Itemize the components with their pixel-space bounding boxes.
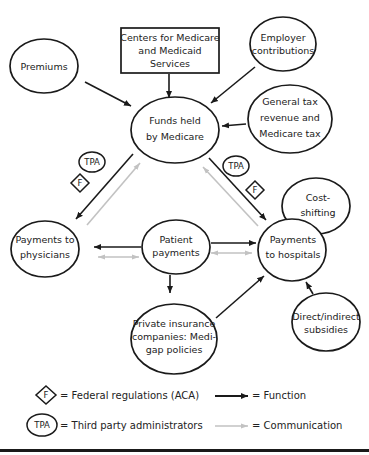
node-premiums-label: Premiums: [20, 61, 67, 72]
legend-tpa: TPA = Third party administrators: [27, 414, 203, 436]
arrow-tax-to-funds: [222, 124, 246, 126]
node-hospitals-label-line2: to hospitals: [265, 249, 320, 260]
node-funds-label-line1: Funds held: [149, 115, 201, 126]
tpa-marker-hospitals: TPA: [223, 156, 249, 176]
legend-f-label: = Federal regulations (ACA): [60, 390, 199, 401]
node-subsidies-label-line2: subsidies: [304, 324, 348, 335]
arrow-premiums-to-funds: [85, 82, 131, 106]
node-subsidies-label-line1: Direct/indirect: [292, 311, 360, 322]
node-cms-label-line2: and Medicaid: [138, 45, 201, 56]
node-cms-label-line3: Services: [150, 58, 190, 69]
node-private-insurance-label-line1: Private insurance: [133, 318, 216, 329]
node-general-tax-revenue: General tax revenue and Medicare tax: [248, 85, 332, 153]
legend-function: = Function: [215, 390, 306, 401]
federal-regulation-marker-hospitals: F: [246, 181, 264, 199]
f-marker-label: F: [78, 178, 83, 188]
node-funds-held-by-medicare: Funds held by Medicare: [131, 97, 219, 163]
arrow-subsidies-to-hospitals: [306, 282, 313, 294]
tpa-marker-label: TPA: [83, 157, 100, 167]
node-cost-shifting-label-line1: Cost-: [306, 192, 331, 203]
node-employer-label-line2: contributions: [252, 45, 315, 56]
node-premiums: Premiums: [10, 39, 78, 93]
node-cost-shifting-label-line2: shifting: [300, 207, 335, 218]
f-marker-label: F: [253, 185, 258, 195]
node-private-insurance-label-line2: companies: Medi-: [132, 331, 216, 342]
node-tax-label-line1: General tax: [262, 96, 318, 107]
node-tax-label-line3: Medicare tax: [259, 128, 321, 139]
node-patient-payments: Patient payments: [142, 220, 210, 274]
medicare-funding-diagram: Premiums Centers for Medicare and Medica…: [0, 0, 369, 455]
legend-communication-label: = Communication: [252, 420, 342, 431]
node-employer-label-line1: Employer: [260, 32, 305, 43]
node-direct-indirect-subsidies: Direct/indirect subsidies: [292, 293, 360, 351]
node-patient-label-line1: Patient: [159, 234, 192, 245]
legend-communication: = Communication: [215, 420, 342, 431]
tpa-marker-label: TPA: [227, 161, 244, 171]
legend: F = Federal regulations (ACA) TPA = Thir…: [27, 386, 342, 436]
node-cms-label-line1: Centers for Medicare: [120, 32, 219, 43]
node-physicians-label-line2: physicians: [20, 249, 70, 260]
legend-federal-regulations: F = Federal regulations (ACA): [36, 386, 199, 404]
node-patient-label-line2: payments: [152, 247, 199, 258]
legend-function-label: = Function: [252, 390, 306, 401]
node-funds-label-line2: by Medicare: [146, 131, 204, 142]
node-private-insurance-label-line3: gap policies: [146, 344, 203, 355]
node-tax-label-line2: revenue and: [260, 112, 320, 123]
node-employer-contributions: Employer contributions: [250, 17, 316, 71]
node-physicians-label-line1: Payments to: [15, 234, 74, 245]
federal-regulation-marker-physicians: F: [71, 174, 89, 192]
legend-tpa-label: = Third party administrators: [60, 420, 203, 431]
node-payments-to-physicians: Payments to physicians: [11, 221, 79, 277]
node-hospitals-label-line1: Payments: [270, 234, 317, 245]
tpa-marker-physicians: TPA: [79, 152, 105, 172]
node-cms: Centers for Medicare and Medicaid Servic…: [120, 28, 219, 73]
bottom-divider: [0, 449, 369, 452]
node-private-insurance: Private insurance companies: Medi- gap p…: [131, 304, 217, 374]
node-payments-to-hospitals: Payments to hospitals: [258, 219, 326, 281]
legend-tpa-symbol: TPA: [33, 420, 50, 430]
arrow-private-insurance-to-hospitals: [216, 276, 264, 318]
legend-f-symbol: F: [44, 390, 49, 400]
